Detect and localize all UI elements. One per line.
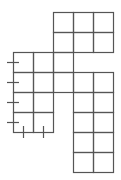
grid-cell: [34, 53, 54, 73]
grid-cell: [94, 153, 114, 173]
grid-cell: [94, 13, 114, 33]
grid-cell: [74, 93, 94, 113]
grid-cell: [74, 73, 94, 93]
grid-cell: [74, 33, 94, 53]
grid-cell: [74, 133, 94, 153]
grid-cells: [14, 13, 114, 173]
grid-cell: [54, 73, 74, 93]
grid-cell: [34, 73, 54, 93]
grid-cell: [34, 93, 54, 113]
grid-cell: [94, 73, 114, 93]
grid-cell: [94, 33, 114, 53]
grid-diagram: [0, 0, 121, 180]
grid-cell: [54, 33, 74, 53]
grid-cell: [94, 133, 114, 153]
tick-marks: [7, 63, 44, 139]
grid-cell: [54, 53, 74, 73]
grid-cell: [54, 13, 74, 33]
grid-cell: [94, 113, 114, 133]
grid-cell: [74, 113, 94, 133]
grid-cell: [74, 13, 94, 33]
grid-cell: [74, 153, 94, 173]
grid-cell: [94, 93, 114, 113]
